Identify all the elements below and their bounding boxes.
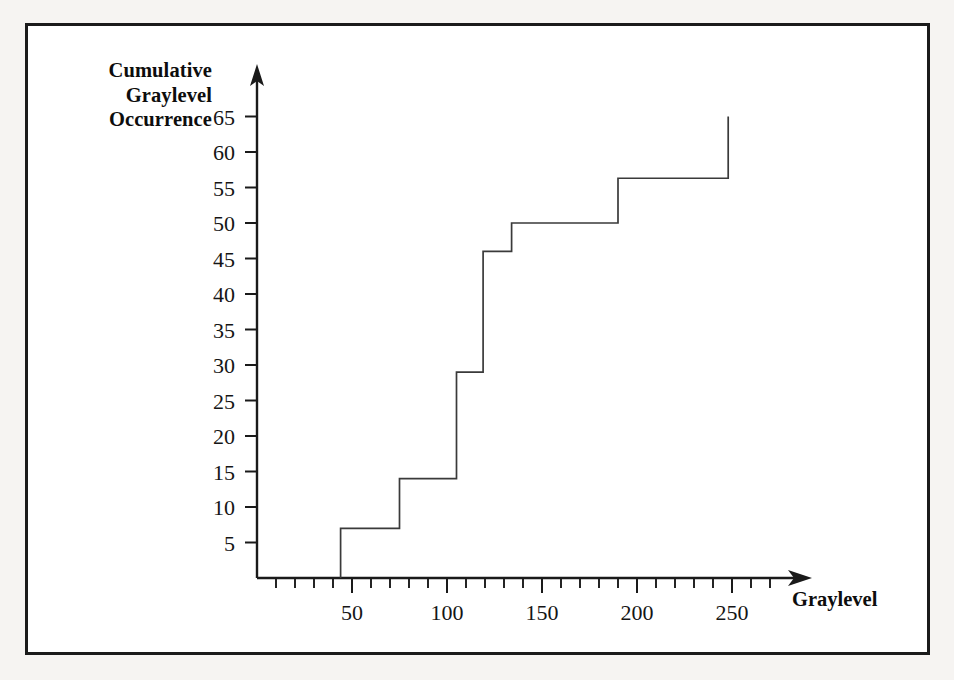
- x-axis-tick-labels: 50100150200250: [341, 600, 749, 625]
- x-axis-ticks: [276, 578, 770, 593]
- y-axis-title-line-3: Occurrence: [62, 107, 212, 132]
- y-tick-label-60: 60: [213, 140, 235, 165]
- x-tick-label-150: 150: [526, 600, 559, 625]
- y-axis-title-line-2: Graylevel: [62, 83, 212, 108]
- cumulative-step-curve: [341, 117, 729, 579]
- y-axis-title: Cumulative Graylevel Occurrence: [62, 58, 212, 132]
- x-tick-label-250: 250: [716, 600, 749, 625]
- x-tick-label-50: 50: [341, 600, 363, 625]
- y-tick-label-35: 35: [213, 318, 235, 343]
- y-tick-label-55: 55: [213, 176, 235, 201]
- x-tick-label-200: 200: [621, 600, 654, 625]
- y-axis-ticks: [245, 117, 257, 543]
- y-tick-label-40: 40: [213, 282, 235, 307]
- y-tick-label-65: 65: [213, 105, 235, 130]
- x-axis-title: Graylevel: [792, 588, 877, 611]
- y-tick-label-5: 5: [224, 531, 235, 556]
- y-tick-label-30: 30: [213, 353, 235, 378]
- x-tick-label-100: 100: [431, 600, 464, 625]
- y-tick-label-10: 10: [213, 495, 235, 520]
- y-tick-label-45: 45: [213, 247, 235, 272]
- y-tick-label-20: 20: [213, 424, 235, 449]
- y-tick-label-15: 15: [213, 460, 235, 485]
- y-tick-label-25: 25: [213, 389, 235, 414]
- figure-root: 5101520253035404550556065 50100150200250…: [0, 0, 954, 680]
- y-tick-label-50: 50: [213, 211, 235, 236]
- y-axis-tick-labels: 5101520253035404550556065: [213, 105, 235, 556]
- y-axis-title-line-1: Cumulative: [62, 58, 212, 83]
